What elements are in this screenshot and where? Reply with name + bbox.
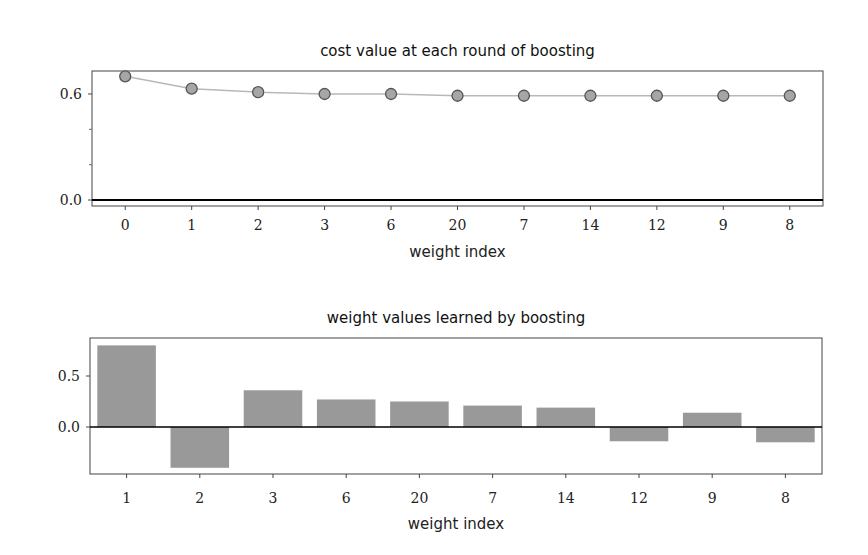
x-tick-label: 20 <box>449 217 467 233</box>
bar <box>97 345 156 427</box>
bar <box>244 390 303 427</box>
chart-figure: cost value at each round of boosting0.00… <box>0 0 868 555</box>
data-point <box>319 88 330 99</box>
x-tick-label: 20 <box>410 490 428 506</box>
x-tick-label: 8 <box>781 490 790 506</box>
x-tick-label: 3 <box>269 490 278 506</box>
data-point <box>585 90 596 101</box>
bar <box>390 402 449 428</box>
x-tick-label: 8 <box>785 217 794 233</box>
data-point <box>386 88 397 99</box>
data-point <box>186 83 197 94</box>
x-tick-label: 1 <box>122 490 131 506</box>
x-tick-label: 6 <box>387 217 396 233</box>
x-axis-label: weight index <box>408 515 505 533</box>
bar <box>537 408 596 427</box>
x-tick-label: 7 <box>519 217 528 233</box>
x-axis-label: weight index <box>409 243 506 261</box>
data-point <box>651 90 662 101</box>
data-point <box>253 87 264 98</box>
chart-title: weight values learned by boosting <box>327 309 585 327</box>
y-tick-label: 0.6 <box>60 86 82 102</box>
x-tick-label: 12 <box>630 490 648 506</box>
data-point <box>120 71 131 82</box>
bar <box>756 427 815 442</box>
x-tick-label: 14 <box>581 217 599 233</box>
weights-bar-chart: weight values learned by boosting0.00.51… <box>58 309 822 533</box>
bar <box>171 427 230 468</box>
data-point <box>718 90 729 101</box>
x-tick-label: 2 <box>254 217 263 233</box>
chart-title: cost value at each round of boosting <box>320 42 595 60</box>
y-tick-label: 0.0 <box>58 419 80 435</box>
data-point <box>518 90 529 101</box>
x-tick-label: 0 <box>121 217 130 233</box>
x-tick-label: 9 <box>719 217 728 233</box>
x-tick-label: 1 <box>187 217 196 233</box>
x-tick-label: 7 <box>488 490 497 506</box>
x-tick-label: 2 <box>195 490 204 506</box>
bar <box>463 406 522 427</box>
cost-line-chart: cost value at each round of boosting0.00… <box>60 42 823 261</box>
bar <box>610 427 669 441</box>
y-tick-label: 0.5 <box>58 368 80 384</box>
bar <box>683 413 742 427</box>
y-tick-label: 0.0 <box>60 192 82 208</box>
x-tick-label: 14 <box>557 490 575 506</box>
x-tick-label: 6 <box>342 490 351 506</box>
bar <box>317 399 376 427</box>
x-tick-label: 12 <box>648 217 666 233</box>
data-point <box>784 90 795 101</box>
x-tick-label: 3 <box>320 217 329 233</box>
data-point <box>452 90 463 101</box>
x-tick-label: 9 <box>708 490 717 506</box>
